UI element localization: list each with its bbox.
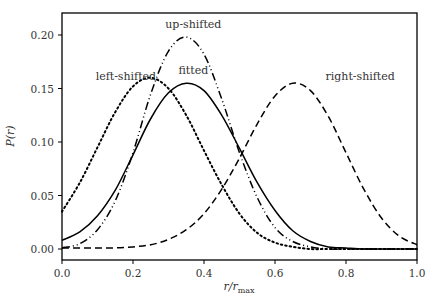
x-axis-label: r/rmax [223,280,255,295]
x-tick-label: 0.2 [125,267,142,279]
y-tick-label: 0.05 [31,190,54,202]
plot-lines [62,37,417,249]
x-tick-label: 1.0 [409,267,426,279]
series-up-shifted [62,37,417,249]
plot-frame [62,13,417,260]
series-fitted [62,83,417,249]
x-tick-label: 0.0 [54,267,71,279]
x-axis-ticks: 0.00.20.40.60.81.0 [54,260,426,279]
series-left-shifted [62,78,417,249]
y-tick-label: 0.00 [31,243,54,255]
annotation-right-shifted: right-shifted [326,70,395,83]
y-tick-label: 0.15 [31,83,54,95]
x-tick-label: 0.8 [338,267,355,279]
annotation-up-shifted: up-shifted [165,18,221,31]
curve-annotations: left-shiftedup-shiftedfittedright-shifte… [96,18,395,83]
chart: 0.00.20.40.60.81.0 0.000.050.100.150.20 … [0,0,435,308]
annotation-left-shifted: left-shifted [96,70,157,83]
y-axis-label: P(r) [4,125,17,147]
x-tick-label: 0.6 [267,267,284,279]
annotation-fitted: fitted [178,64,208,77]
x-tick-label: 0.4 [196,267,213,279]
y-axis-ticks: 0.000.050.100.150.20 [31,29,62,255]
y-tick-label: 0.10 [31,136,54,148]
y-tick-label: 0.20 [31,29,54,41]
series-right-shifted [62,83,417,248]
